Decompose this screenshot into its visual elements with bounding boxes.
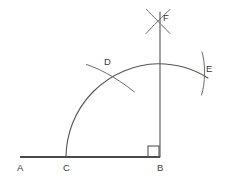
point-label-c: C	[63, 163, 70, 173]
construction-figure: A C B D E F	[0, 0, 233, 184]
geometry-canvas	[0, 0, 233, 184]
point-label-e: E	[206, 64, 212, 74]
point-label-a: A	[17, 163, 23, 173]
arc-cross-e	[202, 52, 205, 95]
point-label-f: F	[163, 13, 169, 23]
right-angle-marker	[148, 146, 159, 157]
arc-main-from-c	[66, 64, 208, 157]
point-label-b: B	[157, 163, 163, 173]
point-label-d: D	[104, 57, 111, 67]
